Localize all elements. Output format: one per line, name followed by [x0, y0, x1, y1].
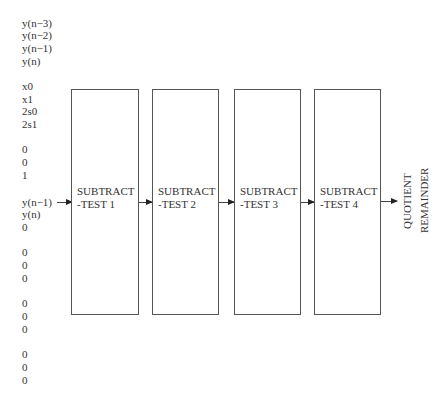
output-label-remainder: REMAINDER: [418, 168, 430, 233]
input-label: 0: [22, 297, 28, 309]
stage-label-line2: -TEST 1: [77, 198, 134, 211]
input-label: 0: [22, 361, 28, 373]
input-label: 0: [22, 374, 28, 386]
stage-label-line1: SUBTRACT: [77, 185, 134, 198]
stage-label: SUBTRACT -TEST 4: [320, 185, 377, 211]
input-label: 0: [22, 348, 28, 360]
stage-box-subtract-test-3: SUBTRACT -TEST 3: [234, 89, 301, 315]
input-label: x1: [22, 93, 33, 105]
stage-label: SUBTRACT -TEST 3: [240, 185, 297, 211]
input-label: x0: [22, 80, 33, 92]
stage-label-line2: -TEST 3: [240, 198, 297, 211]
stage-box-subtract-test-2: SUBTRACT -TEST 2: [152, 89, 219, 315]
input-label: y(n−1): [22, 196, 52, 208]
input-label: 0: [22, 272, 28, 284]
stage-arrow-icon: [301, 202, 314, 203]
input-label: 0: [22, 221, 28, 233]
input-label: 0: [22, 143, 28, 155]
input-label: y(n−1): [22, 42, 52, 54]
input-label: 0: [22, 156, 28, 168]
input-label: 0: [22, 259, 28, 271]
input-label: y(n−3): [22, 17, 52, 29]
stage-label: SUBTRACT -TEST 1: [77, 185, 134, 211]
input-label: y(n−2): [22, 29, 52, 41]
stage-label-line2: -TEST 2: [158, 198, 215, 211]
stage-label-line1: SUBTRACT: [240, 185, 297, 198]
stage-arrow-icon: [219, 202, 234, 203]
output-arrow-icon: [381, 201, 397, 202]
stage-box-subtract-test-1: SUBTRACT -TEST 1: [71, 89, 139, 315]
input-label: 0: [22, 310, 28, 322]
subtract-test-pipeline-diagram: y(n−3) y(n−2) y(n−1) y(n) x0 x1 2s0 2s1 …: [0, 0, 445, 397]
stage-arrow-icon: [139, 202, 152, 203]
stage-label-line1: SUBTRACT: [158, 185, 215, 198]
stage-label: SUBTRACT -TEST 2: [158, 185, 215, 211]
input-label: 2s0: [22, 105, 37, 117]
input-label: 2s1: [22, 118, 37, 130]
input-label: 1: [22, 169, 28, 181]
stage-label-line1: SUBTRACT: [320, 185, 377, 198]
input-label: y(n): [22, 208, 40, 220]
input-arrow-icon: [57, 202, 72, 203]
output-label-quotient: QUOTIENT: [401, 173, 413, 229]
stage-box-subtract-test-4: SUBTRACT -TEST 4: [314, 89, 381, 315]
input-label: 0: [22, 323, 28, 335]
stage-label-line2: -TEST 4: [320, 198, 377, 211]
input-label: y(n): [22, 55, 40, 67]
input-label: 0: [22, 246, 28, 258]
